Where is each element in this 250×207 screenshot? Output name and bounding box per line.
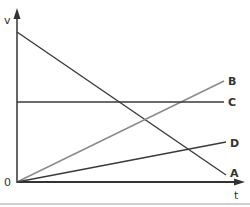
line-a <box>17 32 226 175</box>
origin-label: 0 <box>4 176 11 189</box>
x-axis-label: t <box>234 189 239 202</box>
vt-graph: v t 0 B C D A <box>0 0 250 207</box>
line-a-label: A <box>230 167 239 180</box>
y-axis-arrow-icon <box>14 8 21 19</box>
line-c-label: C <box>228 96 236 109</box>
line-b <box>17 81 224 182</box>
line-d <box>17 142 226 182</box>
y-axis-label: v <box>4 14 11 27</box>
line-d-label: D <box>230 137 239 150</box>
line-b-label: B <box>228 75 236 88</box>
